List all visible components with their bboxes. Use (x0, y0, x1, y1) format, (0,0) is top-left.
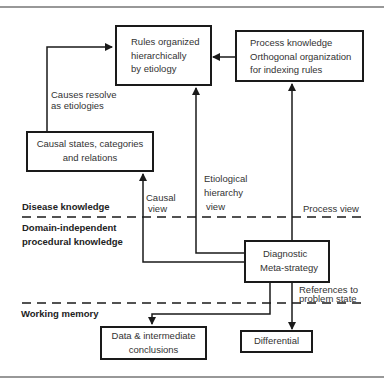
edge-meta-to-rules (196, 88, 244, 253)
process-line-1: Process knowledge (250, 36, 351, 50)
references-line-2: problem state (299, 294, 358, 303)
box-meta-text: Diagnostic Meta-strategy (260, 247, 318, 274)
diagram-canvas: Rules organized hierarchically by etiolo… (0, 0, 384, 385)
label-process-view: Process view (303, 202, 359, 215)
process-line-2: Orthogonal organization (250, 50, 351, 64)
etiological-line-3: view (204, 200, 247, 214)
box-rules-text: Rules organized hierarchically by etiolo… (131, 35, 200, 76)
causal-line-2: and relations (26, 151, 154, 165)
rules-line-3: by etiology (131, 62, 200, 76)
etiological-line-2: hierarchy (204, 186, 247, 200)
meta-line-2: Meta-strategy (260, 261, 318, 275)
rules-line-2: hierarchically (131, 49, 200, 63)
box-process-text: Process knowledge Orthogonal organizatio… (250, 36, 351, 77)
layer-label-procedural-knowledge: Domain-independent procedural knowledge (22, 221, 123, 249)
process-line-3: for indexing rules (250, 63, 351, 77)
layer-label-working-memory: Working memory (21, 307, 98, 320)
differential-line-1: Differential (240, 334, 313, 348)
data-line-2: conclusions (100, 343, 207, 357)
label-references: References to problem state (299, 285, 358, 303)
procedural-line-1: Domain-independent (22, 221, 123, 235)
layer-label-disease-knowledge: Disease knowledge (22, 200, 110, 213)
label-causes-resolve: Causes resolve as etiologies (51, 89, 116, 111)
causal-line-1: Causal states, categories (26, 137, 154, 151)
box-differential-text: Differential (240, 334, 313, 348)
box-causal-text: Causal states, categories and relations (26, 137, 154, 164)
procedural-line-2: procedural knowledge (22, 235, 123, 249)
box-data-text: Data & intermediate conclusions (100, 329, 207, 356)
data-line-1: Data & intermediate (100, 329, 207, 343)
label-causal-view: Causal view (146, 192, 176, 214)
rules-line-1: Rules organized (131, 35, 200, 49)
causal-view-line-2: view (146, 203, 176, 214)
label-etiological-hierarchy: Etiological hierarchy view (204, 172, 247, 214)
meta-line-1: Diagnostic (260, 247, 318, 261)
etiological-line-1: Etiological (204, 172, 247, 186)
causes-resolve-line-1: Causes resolve (51, 89, 116, 100)
causal-view-line-1: Causal (146, 192, 176, 203)
causes-resolve-line-2: as etiologies (51, 100, 116, 111)
